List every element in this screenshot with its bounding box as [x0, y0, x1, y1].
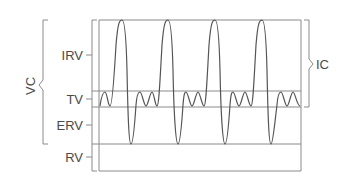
rv-label: RV — [65, 150, 83, 165]
irv-label: IRV — [62, 48, 84, 63]
tv-label: TV — [66, 92, 83, 107]
lung-volume-diagram: IRV TV ERV RV VC IC — [0, 0, 354, 185]
vc-label: VC — [23, 77, 38, 95]
ic-label: IC — [316, 57, 329, 72]
erv-label: ERV — [57, 118, 84, 133]
volume-axis — [86, 20, 97, 171]
ic-brace — [304, 20, 313, 107]
vc-brace — [39, 20, 48, 144]
breathing-waveform — [100, 20, 300, 144]
